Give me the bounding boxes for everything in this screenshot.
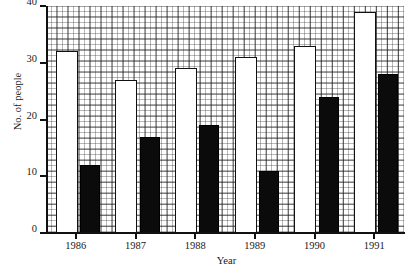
y-axis-title: No. of people [12,47,23,157]
plot-area [46,6,404,233]
bar-black-1986 [80,165,100,233]
bar-chart: 010203040 198619871988198919901991 No. o… [0,0,415,275]
bar-white-1991 [354,12,376,233]
y-tick-label: 20 [27,111,38,121]
y-axis-line [46,6,48,234]
x-tick-label: 1989 [233,240,277,252]
y-tick-label: 0 [32,224,37,234]
x-tick-label: 1987 [114,240,158,252]
y-tick-mark [40,232,46,234]
y-tick-mark [40,62,46,64]
y-tick-mark [40,119,46,121]
bar-white-1987 [115,80,137,233]
y-tick-label: 40 [27,0,38,7]
bar-white-1990 [294,46,316,233]
y-tick-mark [40,5,46,7]
x-tick-label: 1991 [352,240,396,252]
x-tick-mark [194,234,196,239]
x-axis-title: Year [0,255,415,266]
x-tick-mark [373,234,375,239]
bar-white-1989 [235,57,257,233]
x-tick-label: 1988 [173,240,217,252]
x-tick-label: 1986 [54,240,98,252]
bar-black-1987 [140,137,160,233]
y-tick-label: 10 [27,167,38,177]
y-tick-mark [40,175,46,177]
bar-black-1991 [378,74,398,233]
bar-black-1988 [199,125,219,233]
bar-black-1990 [319,97,339,233]
x-axis-line [46,232,405,234]
x-tick-mark [314,234,316,239]
x-tick-label: 1990 [293,240,337,252]
y-tick-label: 30 [27,54,38,64]
bar-white-1988 [175,68,197,233]
x-tick-mark [75,234,77,239]
bar-white-1986 [56,51,78,233]
x-tick-mark [254,234,256,239]
bar-black-1989 [259,171,279,233]
x-tick-mark [135,234,137,239]
